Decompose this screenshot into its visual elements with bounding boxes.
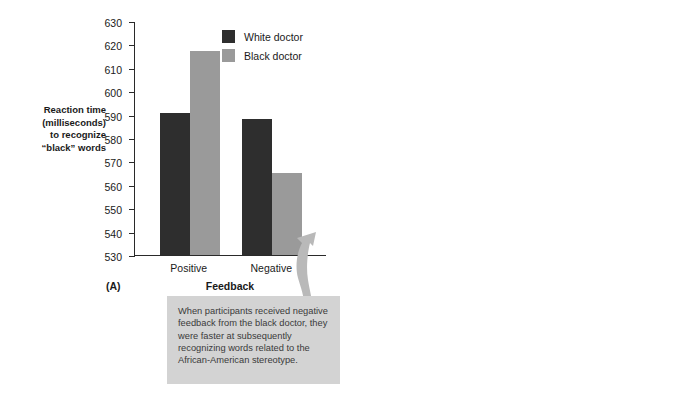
y-axis-tick: 580 <box>129 139 135 140</box>
y-axis-tick-label: 600 <box>104 88 122 99</box>
y-axis-tick: 630 <box>129 22 135 23</box>
y-axis-tick-label: 610 <box>104 65 122 76</box>
y-axis-tick-label: 630 <box>104 18 122 29</box>
x-axis-category-positive: Positive <box>149 262 229 274</box>
legend-a: White doctor Black doctor <box>222 30 303 68</box>
y-axis-tick: 570 <box>129 162 135 163</box>
panel-label-a: (A) <box>106 280 121 292</box>
y-axis-tick: 600 <box>129 92 135 93</box>
y-axis-tick-label: 530 <box>104 252 122 263</box>
y-axis-tick: 540 <box>129 233 135 234</box>
legend-item-white-doctor: White doctor <box>222 30 303 43</box>
y-axis-tick-label: 570 <box>104 158 122 169</box>
y-axis-tick: 560 <box>129 186 135 187</box>
legend-label: Black doctor <box>244 50 302 62</box>
y-axis-tick-label: 550 <box>104 205 122 216</box>
bar-positive-white-doctor <box>160 113 190 255</box>
y-axis-tick: 550 <box>129 209 135 210</box>
chart-panel-b: Reaction time (milliseconds) to recogniz… <box>345 0 693 403</box>
legend-label: White doctor <box>244 31 303 43</box>
legend-item-black-doctor: Black doctor <box>222 49 303 62</box>
y-axis-tick-label: 580 <box>104 135 122 146</box>
y-axis-label-a: Reaction time (milliseconds) to recogniz… <box>8 104 106 154</box>
y-axis-tick-label: 540 <box>104 228 122 239</box>
y-axis-tick-label: 590 <box>104 111 122 122</box>
callout-text-a: When participants received negative feed… <box>167 296 340 384</box>
legend-swatch-icon <box>222 30 235 43</box>
chart-panel-a: Reaction time (milliseconds) to recogniz… <box>0 0 348 403</box>
y-axis-tick: 530 <box>129 256 135 257</box>
y-axis-tick: 590 <box>129 116 135 117</box>
y-axis-tick: 610 <box>129 69 135 70</box>
y-axis-tick-label: 560 <box>104 182 122 193</box>
bar-positive-black-doctor <box>190 51 220 255</box>
y-axis-tick-label: 620 <box>104 41 122 52</box>
bar-negative-white-doctor <box>242 119 272 255</box>
y-axis-tick: 620 <box>129 45 135 46</box>
legend-swatch-icon <box>222 49 235 62</box>
